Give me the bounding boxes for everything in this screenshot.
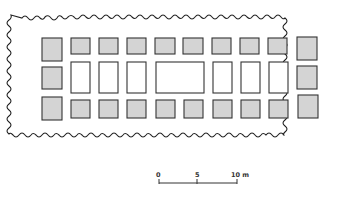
- top-row: [42, 37, 317, 61]
- room: [183, 38, 203, 54]
- corner-room-top-right: [297, 37, 317, 60]
- scale-label-10m: 10 m: [231, 171, 249, 179]
- end-room-left: [42, 67, 62, 89]
- room: [240, 38, 259, 54]
- room: [213, 100, 232, 118]
- room: [99, 38, 118, 54]
- room: [156, 100, 175, 118]
- open-room: [71, 62, 90, 93]
- room: [212, 38, 231, 54]
- room: [127, 100, 146, 118]
- plan-diagram: 0 5 10 m: [0, 0, 360, 201]
- room: [155, 38, 175, 54]
- scale-label-5: 5: [195, 171, 200, 179]
- room: [269, 100, 288, 118]
- open-room: [213, 62, 232, 93]
- corner-room-top-left: [42, 38, 62, 61]
- room: [241, 100, 260, 118]
- scale-label-0: 0: [156, 171, 161, 179]
- room: [71, 38, 90, 54]
- room: [71, 100, 90, 118]
- central-hall: [156, 62, 204, 93]
- room: [268, 38, 287, 54]
- open-room: [269, 62, 288, 93]
- open-room: [99, 62, 118, 93]
- room: [127, 38, 146, 54]
- open-room: [241, 62, 260, 93]
- bottom-row: [42, 95, 318, 120]
- corner-room-bottom-left: [42, 97, 62, 120]
- room: [184, 100, 203, 118]
- room: [99, 100, 118, 118]
- middle-row: [42, 62, 317, 93]
- corner-room-bottom-right: [298, 95, 318, 118]
- scale-bar: [159, 179, 237, 184]
- open-room: [127, 62, 146, 93]
- end-room-right: [297, 66, 317, 89]
